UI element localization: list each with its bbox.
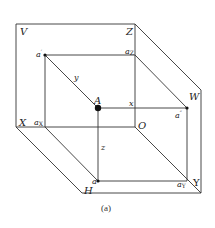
az-to-a-double-prime-line (135, 55, 187, 108)
label-W: W (189, 91, 200, 102)
h-plane-outline (16, 127, 201, 193)
projection-diagram: V W H Z X O Y A a′ a″ a aZ aX aY y x z (… (0, 0, 215, 228)
label-aZ: aZ (125, 47, 134, 56)
a-prime-to-A-line (45, 55, 98, 108)
label-distance-y: y (73, 73, 79, 82)
w-plane-outline (135, 24, 201, 193)
point-a-dot (96, 179, 99, 182)
label-a-double-prime: a″ (175, 109, 183, 120)
label-aX: aX (34, 118, 44, 127)
label-Y: Y (192, 177, 200, 188)
oy-axis-line (135, 127, 201, 193)
label-a-prime: a′ (36, 48, 43, 59)
label-A: A (93, 95, 101, 106)
label-distance-z: z (100, 143, 106, 152)
ax-to-a-line (45, 127, 98, 181)
label-H: H (83, 185, 93, 196)
label-aY: aY (177, 180, 187, 189)
figure-caption: (a) (101, 203, 111, 213)
point-a-double-prime-dot (185, 106, 188, 109)
label-V: V (20, 26, 29, 37)
label-a: a (92, 177, 97, 186)
label-X: X (18, 117, 27, 128)
point-a-prime-dot (43, 53, 46, 56)
label-distance-x: x (129, 99, 134, 108)
label-Z: Z (125, 26, 134, 37)
label-O: O (138, 120, 146, 131)
